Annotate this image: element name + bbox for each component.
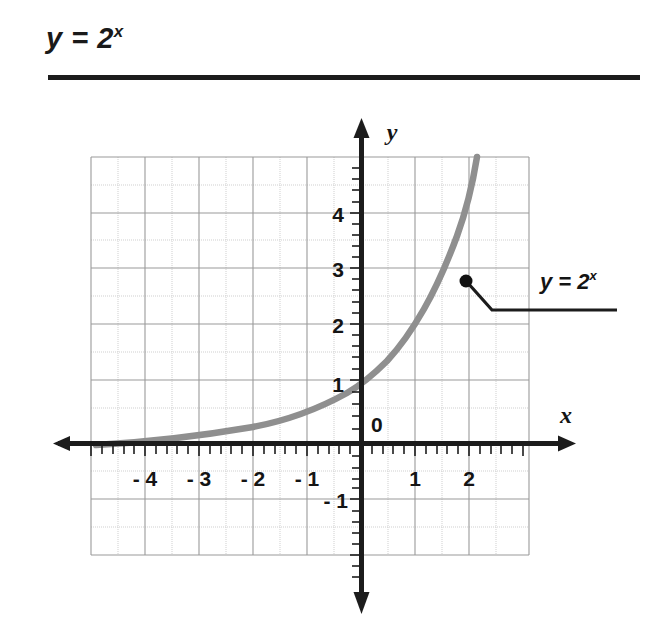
curve-callout-label-base: y = 2 bbox=[539, 269, 590, 294]
x-tick-label: 2 bbox=[463, 467, 475, 490]
x-tick-label: - 2 bbox=[241, 467, 266, 490]
page-title-base: y = 2 bbox=[46, 22, 114, 54]
x-axis-right-arrow bbox=[558, 436, 576, 452]
y-tick-label: 4 bbox=[332, 203, 344, 226]
x-tick-label: - 4 bbox=[133, 467, 158, 490]
graph-figure: - 4 - 3 - 2 - 1 1 2 4 3 2 1 - 1 0 x y y … bbox=[0, 96, 649, 636]
page-title: y = 2x bbox=[46, 22, 124, 55]
y-tick-label: 1 bbox=[332, 373, 344, 396]
y-axis-name: y bbox=[384, 119, 398, 145]
y-axis-top-arrow bbox=[354, 118, 370, 138]
curve-callout-label: y = 2x bbox=[539, 268, 598, 294]
y-tick-label: - 1 bbox=[323, 489, 348, 512]
header-divider bbox=[48, 75, 640, 80]
y-axis-bottom-arrow bbox=[354, 592, 370, 614]
x-tick-label: - 1 bbox=[295, 467, 320, 490]
curve-callout-label-exponent: x bbox=[589, 268, 598, 283]
callout-point-marker bbox=[460, 275, 473, 288]
origin-label: 0 bbox=[371, 413, 383, 436]
y-tick-label: 3 bbox=[332, 258, 344, 281]
y-tick-label: 2 bbox=[332, 314, 344, 337]
x-axis-name: x bbox=[559, 402, 572, 428]
x-tick-label: - 3 bbox=[187, 467, 212, 490]
x-axis-left-arrow bbox=[53, 436, 70, 451]
page-title-exponent: x bbox=[114, 22, 124, 41]
x-tick-label: 1 bbox=[409, 467, 421, 490]
